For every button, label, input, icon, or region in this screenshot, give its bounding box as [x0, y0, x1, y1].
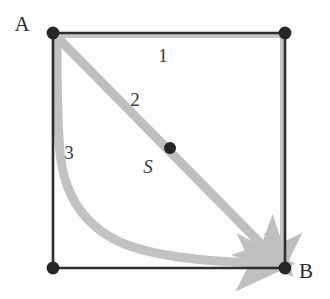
- vertex-label-b: B: [299, 259, 313, 283]
- vertex-dot-a: [47, 27, 60, 40]
- vertex-label-a: A: [14, 12, 30, 36]
- vertex-dot-top-right: [279, 27, 292, 40]
- vertex-dot-b: [279, 262, 292, 275]
- path-label-1: 1: [158, 45, 168, 66]
- midpoint-label-s: S: [143, 156, 153, 177]
- path-diagram: A B S 1 2 3: [0, 0, 330, 299]
- path-label-2: 2: [130, 89, 140, 110]
- figure-root: A B S 1 2 3: [0, 0, 330, 299]
- vertex-dot-bottom-left: [47, 262, 60, 275]
- midpoint-dot-s: [164, 142, 176, 154]
- path-label-3: 3: [64, 142, 74, 163]
